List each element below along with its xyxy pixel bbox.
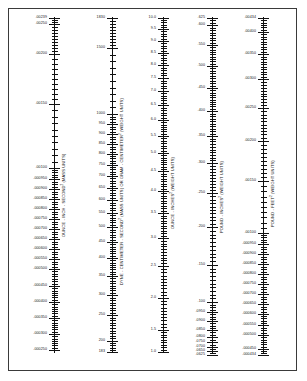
minor-tick [52,202,58,203]
minor-tick [261,145,267,146]
minor-tick [261,62,267,63]
major-tick [49,302,60,303]
minor-tick [261,134,267,135]
minor-tick [161,285,167,286]
minor-tick [210,68,216,69]
minor-tick [110,288,116,289]
minor-tick [261,128,267,129]
tick-label: 1830 [78,16,105,20]
tick-label: .0950 [178,310,205,314]
minor-tick [110,172,116,173]
major-tick [207,227,218,228]
minor-tick [52,194,58,195]
minor-tick [52,149,58,150]
minor-tick [52,110,58,111]
minor-tick [161,174,167,175]
tick-label: .000800 [20,207,47,211]
minor-tick [110,30,116,31]
minor-tick [52,288,58,289]
minor-tick [210,134,216,135]
tick-label: .400 [178,109,205,113]
minor-tick [261,157,267,158]
minor-tick [210,90,216,91]
minor-tick [110,244,116,245]
minor-tick [210,158,216,159]
minor-tick [110,94,116,95]
minor-tick [210,326,216,327]
minor-tick [210,86,216,87]
minor-tick [161,260,167,261]
major-tick [49,209,60,210]
minor-tick [161,151,167,152]
minor-tick [210,155,216,156]
minor-tick [210,250,216,251]
tick-label: .000434 [229,353,256,357]
tick-label: .550 [178,43,205,47]
minor-tick [210,217,216,218]
minor-tick [261,67,267,68]
tick-label: 4.5 [129,169,156,173]
minor-tick [261,99,267,100]
minor-tick [110,193,116,194]
minor-tick [261,277,267,278]
minor-tick [110,169,116,170]
tick-label: .150 [178,263,205,267]
minor-tick [161,189,167,190]
minor-tick [161,308,167,309]
minor-tick [110,183,116,184]
minor-tick [52,117,58,118]
major-tick [158,330,169,331]
minor-tick [161,122,167,123]
minor-tick [261,52,267,53]
tick-label: .00239 [20,16,47,20]
minor-tick [110,33,116,34]
minor-tick [110,272,116,273]
tick-label: 5.0 [129,151,156,155]
minor-tick [110,181,116,182]
tick-label: .000800 [229,272,256,276]
minor-tick [161,51,167,52]
minor-tick [161,98,167,99]
minor-tick [52,247,58,248]
minor-tick [161,221,167,222]
minor-tick [161,63,167,64]
minor-tick [161,228,167,229]
major-tick [207,342,218,343]
tick-label: 6.5 [129,103,156,107]
minor-tick [161,143,167,144]
major-tick [107,258,118,259]
minor-tick [261,309,267,310]
minor-tick [261,91,267,92]
minor-tick [52,262,58,263]
minor-tick [110,225,116,226]
major-tick [107,154,118,155]
minor-tick [110,101,116,102]
tick-label: 8.5 [129,51,156,55]
minor-tick [210,28,216,29]
tick-label: 750 [78,163,105,167]
minor-tick [52,332,58,333]
tick-label: 1000 [78,112,105,116]
minor-tick [161,162,167,163]
minor-tick [52,123,58,124]
minor-tick [210,317,216,318]
minor-tick [110,303,116,304]
minor-tick [52,254,58,255]
minor-tick [161,335,167,336]
axis-title: DYNE - CENTIMETER - SECOND2 (MASS UNITS)… [118,98,124,285]
major-tick [49,54,60,55]
minor-tick [52,327,58,328]
minor-tick [110,318,116,319]
minor-tick [161,301,167,302]
tick-label: .0900 [178,319,205,323]
tick-label: .00250 [229,106,256,110]
minor-tick [210,207,216,208]
minor-tick [110,117,116,118]
major-tick [107,134,118,135]
minor-tick [161,39,167,40]
minor-tick [210,104,216,105]
major-tick [49,18,60,19]
tick-label: .00350 [229,52,256,56]
major-tick [258,264,269,265]
minor-tick [161,345,167,346]
